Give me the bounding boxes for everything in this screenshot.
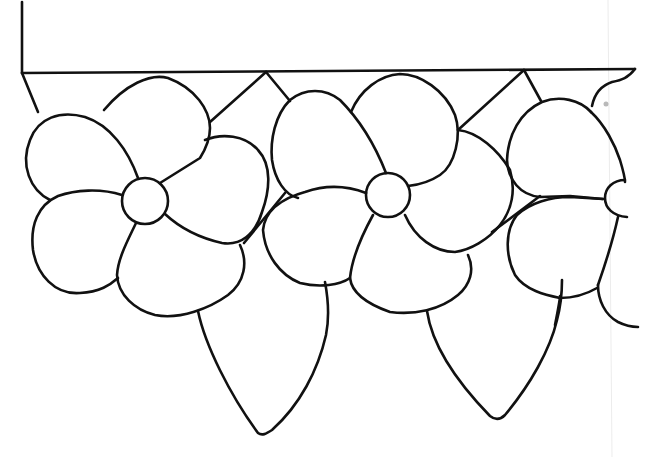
line-art-drawing: Flower border line-art pattern: [0, 0, 663, 457]
flower-2-center: [366, 173, 410, 217]
flower-1: [26, 77, 268, 316]
leaf-2: [427, 280, 562, 419]
flower-2: [263, 74, 513, 313]
leaf-1: [198, 282, 328, 434]
frame: [22, 2, 635, 112]
flower-1-center: [122, 178, 168, 224]
flower-3: [507, 99, 638, 327]
